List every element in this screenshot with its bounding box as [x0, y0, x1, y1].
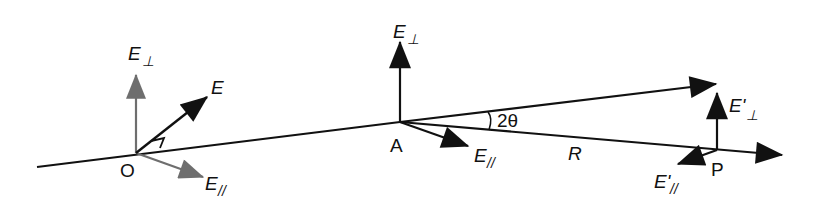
label-E-par-O-main: E: [205, 173, 218, 194]
forward-direction-arrow: [400, 84, 716, 122]
angle-label: 2θ: [497, 110, 518, 131]
point-label-A: A: [390, 135, 403, 156]
incident-beam-line: [37, 122, 400, 167]
label-E-par-O-sub: //: [217, 183, 228, 199]
point-label-P: P: [711, 159, 724, 180]
angle-arc: [488, 112, 491, 130]
label-E-perp-P-main: E': [729, 95, 747, 116]
label-E-perp-O-main: E: [128, 43, 141, 64]
label-E-par-A-sub: //: [486, 155, 497, 171]
label-E-perp-P-sub: ⊥: [746, 107, 758, 123]
label-E-perp-A-main: E: [393, 21, 406, 42]
E-par-arrow-O: [136, 153, 203, 177]
point-label-O: O: [120, 160, 135, 181]
label-E-par-P-sub: //: [669, 181, 680, 197]
label-E-par-A-main: E: [474, 145, 487, 166]
scattered-ray-arrow: [400, 122, 782, 155]
label-E-O: E: [211, 77, 224, 98]
distance-label: R: [568, 143, 582, 164]
scattering-diagram: O A P E ⊥ E E // E ⊥ E // 2θ R E' ⊥ E' /…: [0, 0, 814, 204]
label-E-perp-A-sub: ⊥: [407, 31, 419, 47]
label-E-perp-O-sub: ⊥: [142, 53, 154, 69]
E-arrow-O: [136, 97, 207, 153]
